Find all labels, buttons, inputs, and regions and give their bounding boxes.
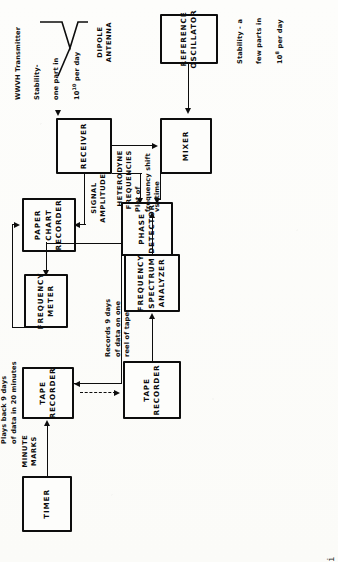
note-wwvh-line2: Stability- [33, 64, 41, 100]
note-plot-output: Plot of frequency shift vs. time [134, 126, 163, 212]
block-frequency-meter-label: FREQUENCY METER [36, 273, 57, 330]
note-refosc-line3-tail: per day [276, 19, 284, 51]
edge-phase-detector-riser [121, 233, 123, 234]
arrowhead-timer-to-recorder [44, 420, 50, 426]
note-wwvh-line1: WWVH Transmitter [14, 27, 22, 100]
block-frequency-spectrum-analyzer-label: FREQUENCY SPECTRUM ANALYZER [136, 255, 167, 312]
edge-timer-to-recorder [47, 426, 48, 476]
note-refosc-line1: Stability - a [236, 19, 244, 64]
edge-label-dipole-antenna: DIPOLE ANTENNA [96, 14, 114, 70]
note-wwvh-line3: one part in [52, 58, 60, 100]
block-timer-label: TIMER [42, 489, 52, 519]
edge-refosc-to-mixer [188, 64, 189, 110]
edge-phase-to-freqmeter-seg [46, 243, 70, 244]
note-refosc-line3-exponent: 8 [274, 51, 280, 55]
edge-freqmeter-to-chart [12, 225, 13, 328]
edge-analyzer-to-plot [152, 218, 153, 254]
note-refosc-line2: few parts in [255, 18, 263, 64]
arrowhead-to-recorder [74, 381, 80, 387]
edge-label-heterodyne-frequencies: HETERODYNE FREQUENCIES [116, 150, 134, 232]
arrowhead-to-paper-chart-recorder [14, 222, 20, 228]
note-wwvh-line4-tail: per day [73, 52, 81, 84]
edge-label-minute-marks: MINUTE MARKS [21, 426, 39, 476]
arrowhead-analyzer-to-plot [149, 212, 155, 218]
block-reference-oscillator-label: REFERENCE OSCILLATOR [179, 10, 200, 69]
edge-record-to-playback-dashed [80, 392, 116, 393]
figure-caption: Fig. 2: Simplified Block Diagram of a Do… [326, 556, 336, 562]
arrowhead-to-frequency-meter [43, 270, 49, 276]
block-timer: TIMER [22, 476, 72, 532]
block-receiver-label: RECEIVER [79, 123, 89, 170]
arrowhead-record-to-playback [114, 390, 120, 396]
edge-label-signal-amplitude: SIGNAL AMPLITUDE [90, 170, 108, 226]
note-refosc-line3-base: 10 [276, 55, 284, 64]
block-frequency-meter: FREQUENCY METER [24, 274, 68, 328]
arrowhead-receiver-to-chart [74, 222, 80, 228]
block-tape-recorder-playback-label: TAPE RECORDER [142, 365, 163, 416]
arrowhead-playback-to-analyzer [149, 313, 155, 319]
block-tape-recorder-playback: TAPE RECORDER [123, 361, 181, 419]
edge-phase-to-freqmeter-riser [68, 243, 122, 244]
block-tape-recorder-record-label: TAPE RECORDER [38, 368, 59, 419]
edge-recorder-drop [74, 383, 122, 384]
block-mixer: MIXER [160, 118, 212, 174]
note-wwvh-line4-base: 10 [73, 91, 81, 100]
edge-receiver-to-chart [84, 173, 85, 225]
note-wwvh-line4-exponent: 10 [71, 83, 77, 90]
note-reference-oscillator-stability: Stability - a few parts in 108 per day [226, 0, 285, 64]
block-reference-oscillator: REFERENCE OSCILLATOR [160, 14, 218, 64]
figure-caption-text: Fig. 2: Simplified Block Diagram of a Do… [326, 556, 336, 562]
block-mixer-label: MIXER [181, 131, 191, 161]
edge-playback-to-analyzer [152, 319, 153, 361]
block-receiver: RECEIVER [56, 118, 112, 174]
note-records: Records 9 days of data on one reel of ta… [104, 261, 133, 357]
block-diagram: TIMER TAPE RECORDER TAPE RECORDER FREQUE… [0, 0, 338, 562]
arrowhead-antenna-to-receiver [55, 110, 61, 116]
note-plays-back: Plays back 9 days of data in 20 minutes [0, 314, 19, 444]
arrowhead-refosc-to-mixer [185, 108, 191, 114]
block-tape-recorder-record: TAPE RECORDER [22, 367, 74, 419]
note-wwvh-transmitter: WWVH Transmitter Stability- one part in … [4, 0, 83, 100]
